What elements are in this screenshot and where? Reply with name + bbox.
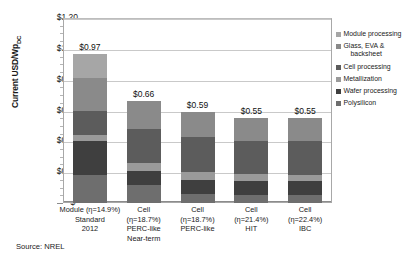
bar-column[interactable]: $0.97 xyxy=(73,54,107,204)
y-axis-title: Current USD/WpDC xyxy=(10,12,22,132)
legend-item[interactable]: Module processing xyxy=(336,30,420,38)
legend-label: Glass, EVA &backsheet xyxy=(344,42,385,58)
legend-label: Polysilicon xyxy=(344,99,377,107)
bar-total-label: $0.55 xyxy=(294,106,315,116)
bar-segment[interactable] xyxy=(73,54,107,79)
legend-item[interactable]: Glass, EVA &backsheet xyxy=(336,42,420,58)
legend-item[interactable]: Wafer processing xyxy=(336,87,420,95)
bar-segment[interactable] xyxy=(73,175,107,203)
bar-total-label: $0.66 xyxy=(133,89,154,99)
legend-swatch-icon xyxy=(336,77,341,82)
bar-series-group: $0.97$0.66$0.59$0.55$0.55 xyxy=(63,18,332,203)
y-axis-title-subscript: DC xyxy=(16,36,22,44)
bar-segment[interactable] xyxy=(127,129,161,163)
chart-legend: Module processingGlass, EVA &backsheetCe… xyxy=(336,30,420,111)
bar-column[interactable]: $0.55 xyxy=(234,118,268,203)
bar-segment[interactable] xyxy=(73,141,107,175)
legend-swatch-icon xyxy=(336,65,341,70)
x-axis-category-line: IBC xyxy=(271,224,339,234)
legend-label-line: backsheet xyxy=(344,50,385,58)
y-axis-tick-mark xyxy=(57,203,63,204)
bar-segment[interactable] xyxy=(127,185,161,204)
bar-column[interactable]: $0.66 xyxy=(127,101,161,203)
bar-segment[interactable] xyxy=(288,141,322,175)
bar-segment[interactable] xyxy=(181,137,215,172)
bar-segment[interactable] xyxy=(127,171,161,185)
legend-label: Metallization xyxy=(344,75,382,83)
x-axis-category-line: (η=22.4%) xyxy=(271,215,339,225)
bar-segment[interactable] xyxy=(181,194,215,203)
legend-label: Module processing xyxy=(344,30,402,38)
chart-container: Current USD/WpDC $-$0.20$0.40$0.60$0.80$… xyxy=(0,0,420,264)
source-note: Source: NREL xyxy=(16,242,65,251)
bar-segment[interactable] xyxy=(73,111,107,136)
bar-segment[interactable] xyxy=(234,118,268,141)
bar-segment[interactable] xyxy=(181,112,215,137)
x-axis-category-line: Cell xyxy=(271,205,339,215)
bar-segment[interactable] xyxy=(127,101,161,129)
bar-segment[interactable] xyxy=(234,181,268,195)
bar-column[interactable]: $0.59 xyxy=(181,112,215,203)
x-axis-labels: Module (η=14.9%)Standard2012Cell(η=18.7%… xyxy=(63,205,332,257)
bar-segment[interactable] xyxy=(181,180,215,194)
legend-item[interactable]: Cell processing xyxy=(336,63,420,71)
legend-item[interactable]: Metallization xyxy=(336,75,420,83)
bar-segment[interactable] xyxy=(288,195,322,203)
x-axis-category-line: Near-term xyxy=(110,234,178,244)
bar-segment[interactable] xyxy=(127,163,161,171)
legend-swatch-icon xyxy=(336,32,341,37)
legend-item[interactable]: Polysilicon xyxy=(336,99,420,107)
legend-label: Cell processing xyxy=(344,63,391,71)
bar-segment[interactable] xyxy=(288,181,322,195)
bar-column[interactable]: $0.55 xyxy=(288,118,322,203)
bar-segment[interactable] xyxy=(234,141,268,173)
legend-swatch-icon xyxy=(336,44,341,49)
bar-segment[interactable] xyxy=(234,195,268,203)
legend-label: Wafer processing xyxy=(344,87,397,95)
legend-swatch-icon xyxy=(336,89,341,94)
legend-swatch-icon xyxy=(336,101,341,106)
bar-segment[interactable] xyxy=(73,78,107,110)
bar-segment[interactable] xyxy=(181,172,215,180)
x-axis-category-label: Cell(η=22.4%)IBC xyxy=(271,205,339,234)
y-axis-title-text: Current USD/Wp xyxy=(10,44,20,108)
bar-segment[interactable] xyxy=(288,118,322,141)
bar-total-label: $0.97 xyxy=(79,42,100,52)
bar-segment[interactable] xyxy=(234,174,268,182)
bar-total-label: $0.59 xyxy=(187,100,208,110)
bar-total-label: $0.55 xyxy=(241,106,262,116)
